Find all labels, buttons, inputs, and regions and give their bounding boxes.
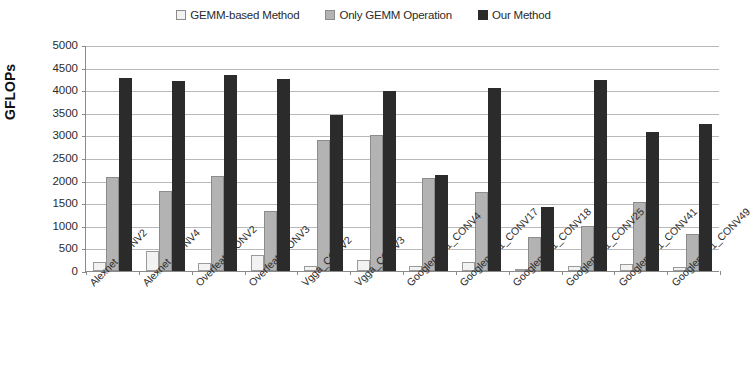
y-axis-tick-label: 1500	[32, 198, 78, 210]
legend-item-only-gemm-operation: Only GEMM Operation	[325, 9, 452, 21]
legend-item-gemm-based-method: GEMM-based Method	[176, 9, 299, 21]
y-axis-tick-label: 2500	[32, 153, 78, 165]
legend-swatch-icon	[176, 10, 186, 20]
x-axis-labels: Alexnet_CONV2Alexnet_CONV4Overfeat_CONV2…	[85, 274, 719, 382]
legend-swatch-icon	[325, 10, 335, 20]
legend-label: Only GEMM Operation	[339, 9, 452, 21]
y-axis-tick-label: 0	[32, 266, 78, 278]
y-axis-tick-label: 2000	[32, 176, 78, 188]
y-axis-tick-label: 4000	[32, 85, 78, 97]
y-axis-ticks: 5000450040003500300025002000150010005000	[16, 0, 78, 382]
y-axis-tick-label: 3000	[32, 130, 78, 142]
y-axis-tick-label: 1000	[32, 221, 78, 233]
y-axis-tick-label: 500	[32, 243, 78, 255]
y-axis-tick-label: 4500	[32, 63, 78, 75]
x-axis-tickmark	[720, 271, 721, 275]
legend-item-our-method: Our Method	[478, 9, 551, 21]
legend-swatch-icon	[478, 10, 488, 20]
chart-legend: GEMM-based Method Only GEMM Operation Ou…	[0, 9, 727, 21]
legend-label: Our Method	[492, 9, 551, 21]
y-axis-tick-label: 3500	[32, 108, 78, 120]
legend-label: GEMM-based Method	[190, 9, 299, 21]
y-axis-tick-label: 5000	[32, 40, 78, 52]
